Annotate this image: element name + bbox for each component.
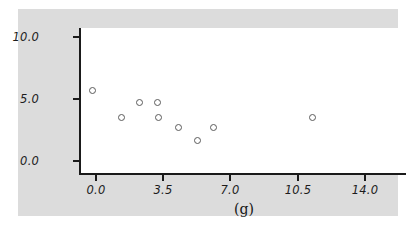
x-axis-tick: [229, 175, 231, 181]
y-axis-tick: [73, 160, 80, 162]
x-axis-tick-label: 0.0: [66, 183, 126, 197]
data-point: [175, 124, 182, 131]
y-axis-tick-label: 10.0: [0, 30, 39, 44]
x-axis-line: [79, 173, 406, 175]
x-axis-tick: [162, 175, 164, 181]
data-point: [155, 114, 162, 121]
y-axis-tick-label: 0.0: [0, 154, 39, 168]
y-axis-tick-label: 5.0: [0, 92, 39, 106]
x-axis-tick: [297, 175, 299, 181]
x-axis-tick: [95, 175, 97, 181]
y-axis-tick: [73, 36, 80, 38]
chart-figure: 10.0 5.0 0.0 0.0 3.5 7.0 10.5 14.0 (g): [0, 0, 409, 226]
figure-panel: 10.0 5.0 0.0 0.0 3.5 7.0 10.5 14.0 (g): [18, 9, 398, 216]
x-axis-tick: [364, 175, 366, 181]
y-axis-tick: [73, 98, 80, 100]
x-axis-title: (g): [80, 201, 408, 217]
plot-area: [80, 28, 408, 174]
x-axis-tick-label: 3.5: [133, 183, 193, 197]
x-axis-tick-label: 7.0: [200, 183, 260, 197]
data-point: [194, 137, 201, 144]
x-axis-tick-label: 10.5: [268, 183, 328, 197]
x-axis-tick-label: 14.0: [335, 183, 395, 197]
y-axis-line: [79, 28, 81, 175]
